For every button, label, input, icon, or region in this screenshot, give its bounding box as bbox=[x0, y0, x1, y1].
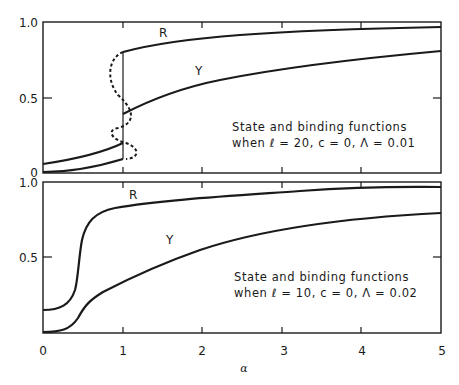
top-Y-curve bbox=[43, 51, 441, 172]
top-panel: 1.0 0.5 0 R Y State and binding function… bbox=[19, 16, 441, 180]
top-Y-label: Y bbox=[194, 64, 203, 78]
bottom-Y-label: Y bbox=[165, 233, 174, 247]
x-axis-label: α bbox=[240, 362, 248, 375]
x-tick-5: 5 bbox=[438, 344, 446, 358]
bottom-panel: 1.0 0.5 R Y State and binding functions … bbox=[19, 176, 441, 333]
bottom-annotation-line2: when ℓ = 10, c = 0, Λ = 0.02 bbox=[234, 286, 417, 300]
bottom-plot-frame bbox=[43, 182, 441, 333]
bottom-y-tick-05: 0.5 bbox=[19, 251, 38, 265]
bottom-R-label: R bbox=[129, 188, 137, 202]
x-tick-2: 2 bbox=[198, 344, 206, 358]
x-tick-1: 1 bbox=[119, 344, 127, 358]
figure: 1.0 0.5 0 R Y State and binding function… bbox=[0, 0, 459, 385]
x-tick-labels: 0 1 2 3 4 5 bbox=[39, 344, 446, 358]
x-tick-3: 3 bbox=[280, 344, 288, 358]
top-R-label: R bbox=[159, 26, 167, 40]
top-annotation-line2: when ℓ = 20, c = 0, Λ = 0.01 bbox=[232, 136, 415, 150]
top-annotation-line1: State and binding functions bbox=[232, 120, 407, 134]
bottom-x-ticks bbox=[43, 182, 441, 333]
x-tick-4: 4 bbox=[358, 344, 366, 358]
bottom-annotation-line1: State and binding functions bbox=[234, 270, 409, 284]
top-y-tick-05: 0.5 bbox=[19, 92, 38, 106]
x-tick-0: 0 bbox=[39, 344, 47, 358]
bottom-y-tick-1: 1.0 bbox=[19, 176, 38, 190]
top-y-tick-1: 1.0 bbox=[19, 16, 38, 30]
